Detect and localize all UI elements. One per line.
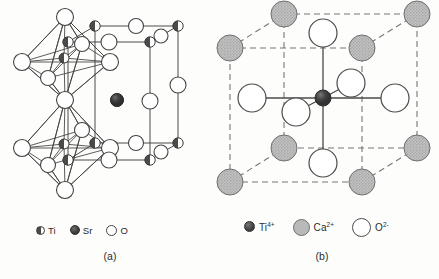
legend-symbol-ca2: Ca [314,222,327,233]
legend-symbol-ti4: Ti [259,222,267,233]
legend-symbol-o2: O [375,222,383,233]
legend-charge-o2: 2- [383,221,389,228]
legend-label-o: O [120,225,128,236]
legend-label-ti4: Ti4+ [259,221,275,233]
perovskite-structure-figure: Ti Sr O Ti4+ Ca2+ O2- (a) (b) [0,0,439,279]
legend-item-sr: Sr [70,225,93,236]
legend-charge-ca2: 2+ [327,221,334,228]
ca2-marker-icon [293,219,310,236]
oxygen-atoms-a [14,9,187,199]
legend-item-ti4: Ti4+ [244,221,275,233]
legend-item-o: O [106,225,128,236]
ti4-marker-icon [244,221,255,232]
panel-b-drawing [212,0,439,215]
legend-item-ca2: Ca2+ [293,219,334,236]
o2-marker-icon [352,218,371,237]
legend-charge-ti4: 4+ [267,221,274,228]
legend-label-ca2: Ca2+ [314,221,334,233]
legend-panel-a: Ti Sr O [36,219,196,241]
caption-panel-b: (b) [292,250,352,262]
legend-panel-b: Ti4+ Ca2+ O2- [244,216,434,238]
ti-marker-icon [36,226,45,235]
legend-item-ti: Ti [36,225,56,236]
strontium-atom-a [110,93,123,106]
legend-label-o2: O2- [375,221,389,233]
caption-panel-a: (a) [80,250,140,262]
panel-a-drawing [0,0,215,215]
panel-b-structure [212,0,439,215]
panel-a-structure [0,0,215,215]
sr-marker-icon [70,225,80,235]
o-marker-icon [106,225,117,236]
legend-item-o2: O2- [352,218,389,237]
titanium-atom-b [315,90,331,106]
legend-label-ti: Ti [48,225,56,236]
legend-label-sr: Sr [83,225,93,236]
